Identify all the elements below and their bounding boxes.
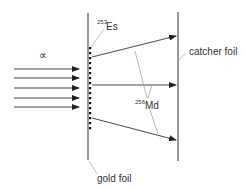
target-atom-dot — [89, 82, 91, 84]
es-symbol-label: Es — [106, 22, 118, 32]
target-atom-dot — [89, 57, 91, 59]
target-atom-dot — [89, 62, 91, 64]
target-atom-dot — [89, 97, 91, 99]
target-atom-dot — [89, 112, 91, 114]
target-atom-dot — [89, 117, 91, 119]
target-atom-dot — [89, 127, 91, 129]
md-leader-line-upper — [135, 51, 147, 98]
catcher-foil-label: catcher foil — [189, 47, 237, 57]
target-atom-dot — [89, 47, 91, 49]
recoil-arrow — [92, 36, 176, 57]
recoil-arrows — [92, 36, 176, 140]
target-atoms — [89, 47, 91, 129]
md-leader-line-lower — [150, 110, 158, 134]
md-symbol-label: Md — [145, 101, 159, 111]
target-atom-dot — [89, 107, 91, 109]
catcher-foil-leader-line — [179, 53, 186, 60]
target-atom-dot — [89, 77, 91, 79]
target-atom-dot — [89, 67, 91, 69]
gold-foil-leader-line — [89, 161, 97, 174]
md-leader-line-right — [148, 85, 152, 98]
target-atom-dot — [89, 102, 91, 104]
md-mass-number: 256 — [135, 99, 145, 105]
target-atom-dot — [89, 122, 91, 124]
gold-foil-label: gold foil — [97, 174, 131, 184]
target-atom-dot — [89, 92, 91, 94]
alpha-label: ∝ — [39, 50, 47, 61]
es-leader-line — [91, 29, 104, 47]
target-atom-dot — [89, 72, 91, 74]
target-atom-dot — [89, 52, 91, 54]
diagram-canvas — [0, 0, 245, 190]
recoil-arrow — [92, 118, 176, 140]
alpha-beam-arrows — [14, 69, 79, 107]
target-atom-dot — [89, 87, 91, 89]
